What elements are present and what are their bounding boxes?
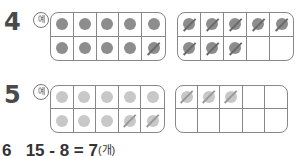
crossed-dot-icon — [225, 91, 237, 103]
frame-cell — [97, 37, 120, 61]
frame-cell — [224, 37, 247, 61]
frame-cell — [74, 86, 97, 109]
crossed-dot-icon — [276, 18, 288, 30]
frame-cell — [119, 37, 142, 61]
frame-cell — [243, 109, 265, 132]
frame-cell — [51, 86, 74, 109]
frame-cell — [270, 13, 293, 37]
frame-cell — [270, 37, 293, 61]
frame-cell — [96, 86, 119, 109]
dot-icon — [148, 18, 160, 30]
frame-cell — [74, 13, 97, 37]
frame-cell — [224, 13, 247, 37]
crossed-dot-icon — [206, 18, 218, 30]
crossed-dot-icon — [147, 115, 159, 127]
crossed-dot-icon — [229, 42, 241, 54]
dot-icon — [101, 42, 113, 54]
crossed-dot-icon — [203, 91, 215, 103]
unit-label: (개) — [98, 144, 115, 156]
dot-icon — [79, 42, 91, 54]
frame-cell — [198, 109, 220, 132]
dot-icon — [56, 91, 68, 103]
frame-cell — [220, 109, 242, 132]
dot-icon — [101, 115, 113, 127]
dot-icon — [78, 115, 90, 127]
ten-frame-4a — [50, 12, 166, 61]
frame-cell — [265, 109, 287, 132]
frame-cell — [74, 109, 97, 132]
frame-cell — [176, 86, 198, 109]
frame-cell — [201, 37, 224, 61]
crossed-dot-icon — [229, 18, 241, 30]
frame-cell — [178, 37, 201, 61]
frame-cell — [96, 109, 119, 132]
frame-cell — [247, 13, 270, 37]
frame-cell — [51, 37, 74, 61]
crossed-dot-icon — [181, 91, 193, 103]
dot-icon — [124, 18, 136, 30]
frame-cell — [142, 37, 165, 61]
frame-cell — [265, 86, 287, 109]
problem-number-5: 5 — [4, 81, 21, 109]
dot-icon — [79, 18, 91, 30]
dot-icon — [101, 18, 113, 30]
ten-frame-5b — [175, 85, 288, 133]
frame-cell — [74, 37, 97, 61]
ten-frame-5a — [50, 85, 165, 133]
problem-number-4: 4 — [4, 8, 21, 36]
frame-cell — [243, 86, 265, 109]
answer-6: 6 15 - 8 = 7(개) — [2, 141, 115, 156]
frame-cell — [51, 109, 74, 132]
example-badge: 예 — [33, 12, 49, 28]
frame-cell — [141, 86, 164, 109]
frame-cell — [198, 86, 220, 109]
dot-icon — [124, 42, 136, 54]
crossed-dot-icon — [183, 42, 195, 54]
frame-cell — [247, 37, 270, 61]
crossed-dot-icon — [206, 42, 218, 54]
frame-cell — [51, 13, 74, 37]
dot-icon — [101, 91, 113, 103]
frame-cell — [178, 13, 201, 37]
ten-frame-4b — [177, 12, 294, 61]
frame-cell — [201, 13, 224, 37]
crossed-dot-icon — [183, 18, 195, 30]
frame-cell — [141, 109, 164, 132]
equation: 15 - 8 = 7 — [26, 141, 98, 156]
frame-cell — [176, 109, 198, 132]
example-badge: 예 — [33, 84, 49, 100]
crossed-dot-icon — [252, 18, 264, 30]
frame-cell — [220, 86, 242, 109]
dot-icon — [78, 91, 90, 103]
frame-cell — [97, 13, 120, 37]
crossed-dot-icon — [148, 42, 160, 54]
dot-icon — [56, 18, 68, 30]
problem-number-6: 6 — [2, 141, 11, 156]
frame-cell — [119, 109, 142, 132]
dot-icon — [124, 91, 136, 103]
dot-icon — [56, 115, 68, 127]
frame-cell — [119, 13, 142, 37]
dot-icon — [147, 91, 159, 103]
crossed-dot-icon — [124, 115, 136, 127]
frame-cell — [119, 86, 142, 109]
dot-icon — [56, 42, 68, 54]
frame-cell — [142, 13, 165, 37]
